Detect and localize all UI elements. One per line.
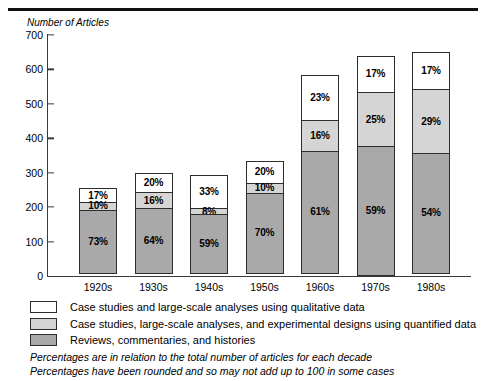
- bar-segment[interactable]: 16%: [135, 192, 173, 209]
- bar-segment[interactable]: 33%: [190, 175, 228, 208]
- segment-percent-label: 17%: [366, 69, 385, 79]
- bar-segment[interactable]: 17%: [412, 52, 450, 90]
- segment-percent-label: 59%: [199, 239, 218, 249]
- bar-segment[interactable]: 64%: [135, 208, 173, 274]
- x-tick-label-1920s: 1920s: [68, 281, 128, 293]
- bar-segment[interactable]: 17%: [357, 56, 395, 93]
- footnote-line: Percentages are in relation to the total…: [30, 351, 480, 365]
- legend: Case studies and large-scale analyses us…: [30, 299, 478, 349]
- legend-label: Case studies, large-scale analyses, and …: [70, 318, 476, 330]
- y-tick-label: 300: [17, 167, 43, 179]
- x-tick-label-1950s: 1950s: [235, 281, 295, 293]
- y-tick-mark: [47, 241, 54, 242]
- y-tick-label: 400: [17, 132, 43, 144]
- legend-swatch: [30, 318, 57, 330]
- bar-segment[interactable]: 54%: [412, 153, 450, 274]
- x-tick-label-1930s: 1930s: [124, 281, 184, 293]
- bar-1940s[interactable]: 33%8%59%: [190, 175, 228, 276]
- bar-1960s[interactable]: 23%16%61%: [301, 75, 339, 276]
- segment-percent-label: 54%: [421, 208, 440, 218]
- bar-segment[interactable]: 70%: [246, 193, 284, 274]
- x-tick-label-1960s: 1960s: [290, 281, 350, 293]
- bar-segment[interactable]: 20%: [135, 173, 173, 194]
- bar-segment[interactable]: 61%: [301, 151, 339, 274]
- bar-segment[interactable]: 16%: [301, 120, 339, 152]
- bar-segment[interactable]: 20%: [246, 161, 284, 184]
- y-tick-label: 100: [17, 236, 43, 248]
- segment-percent-label: 20%: [144, 178, 163, 188]
- segment-percent-label: 33%: [199, 187, 218, 197]
- y-tick-label: 500: [17, 98, 43, 110]
- y-tick-label: 700: [17, 29, 43, 41]
- segment-percent-label: 10%: [255, 183, 274, 193]
- segment-percent-label: 16%: [310, 131, 329, 141]
- segment-percent-label: 17%: [421, 66, 440, 76]
- bar-1980s[interactable]: 17%29%54%: [412, 52, 450, 276]
- bar-segment[interactable]: 29%: [412, 89, 450, 154]
- segment-percent-label: 64%: [144, 236, 163, 246]
- y-tick-mark: [47, 206, 54, 207]
- segment-percent-label: 16%: [144, 196, 163, 206]
- bar-segment[interactable]: 73%: [79, 210, 117, 274]
- x-axis-line: [47, 276, 471, 277]
- y-tick-mark: [47, 138, 54, 139]
- y-tick-label: 200: [17, 201, 43, 213]
- legend-label: Reviews, commentaries, and histories: [70, 334, 255, 346]
- segment-percent-label: 17%: [88, 191, 107, 201]
- segment-percent-label: 23%: [310, 93, 329, 103]
- footnote-line: Percentages have been rounded and so may…: [30, 365, 480, 379]
- bar-1930s[interactable]: 20%16%64%: [135, 173, 173, 276]
- legend-label: Case studies and large-scale analyses us…: [70, 301, 365, 313]
- bar-1970s[interactable]: 17%25%59%: [357, 56, 395, 276]
- segment-percent-label: 61%: [310, 207, 329, 217]
- bar-segment[interactable]: 59%: [357, 146, 395, 276]
- y-tick-mark: [47, 69, 54, 70]
- bar-segment[interactable]: 23%: [301, 75, 339, 121]
- y-tick-mark: [47, 172, 54, 173]
- legend-swatch: [30, 301, 57, 313]
- y-axis-title: Number of Articles: [27, 17, 109, 28]
- segment-percent-label: 59%: [366, 206, 385, 216]
- segment-percent-label: 70%: [255, 228, 274, 238]
- y-tick-mark: [47, 34, 54, 35]
- segment-percent-label: 29%: [421, 117, 440, 127]
- segment-percent-label: 25%: [366, 115, 385, 125]
- legend-item[interactable]: Reviews, commentaries, and histories: [30, 332, 478, 349]
- bar-segment[interactable]: 25%: [357, 92, 395, 147]
- segment-percent-label: 20%: [255, 167, 274, 177]
- y-tick-label: 0: [17, 270, 43, 282]
- x-tick-label-1970s: 1970s: [346, 281, 406, 293]
- legend-item[interactable]: Case studies, large-scale analyses, and …: [30, 316, 478, 333]
- x-tick-label-1940s: 1940s: [179, 281, 239, 293]
- legend-item[interactable]: Case studies and large-scale analyses us…: [30, 299, 478, 316]
- x-tick-label-1980s: 1980s: [401, 281, 461, 293]
- segment-percent-label: 73%: [88, 237, 107, 247]
- y-tick-label: 600: [17, 63, 43, 75]
- bar-1920s[interactable]: 17%10%73%: [79, 188, 117, 276]
- y-tick-mark: [47, 103, 54, 104]
- top-divider-rule: [8, 8, 478, 11]
- bar-segment[interactable]: 59%: [190, 214, 228, 273]
- legend-swatch: [30, 334, 57, 346]
- bar-1950s[interactable]: 20%10%70%: [246, 161, 284, 276]
- footnotes: Percentages are in relation to the total…: [30, 351, 480, 378]
